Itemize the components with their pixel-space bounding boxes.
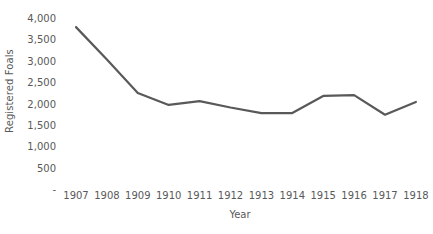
- x-axis-tick-label: 1907: [59, 189, 93, 203]
- x-axis-tick-label: 1918: [399, 189, 433, 203]
- x-axis-tick-label: 1908: [90, 189, 124, 203]
- x-axis-title: Year: [60, 208, 420, 222]
- x-axis-tick-label: 1915: [306, 189, 340, 203]
- x-axis-tick-label: 1909: [121, 189, 155, 203]
- x-axis-tick-label: 1917: [368, 189, 402, 203]
- x-axis-tick-label: 1914: [275, 189, 309, 203]
- x-axis-tick-label: 1910: [152, 189, 186, 203]
- data-series-line: [76, 27, 416, 115]
- x-axis-tick-label: 1913: [244, 189, 278, 203]
- x-axis-tick-label: 1916: [337, 189, 371, 203]
- x-axis-tick-label: 1912: [214, 189, 248, 203]
- x-axis-tick-labels: 1907190819091910191119121913191419151916…: [0, 189, 428, 205]
- x-axis-tick-label: 1911: [183, 189, 217, 203]
